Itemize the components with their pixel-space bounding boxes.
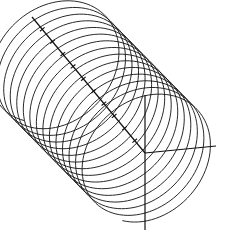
helix-coils (0, 1, 210, 222)
helix-curve (0, 1, 210, 222)
diagonal-axis (32, 17, 145, 153)
helix-figure (0, 0, 228, 243)
coordinate-axes (32, 17, 216, 230)
helix-plot (0, 0, 228, 243)
